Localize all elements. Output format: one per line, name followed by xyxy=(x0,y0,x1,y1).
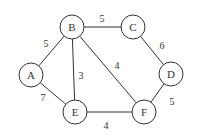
node-e: E xyxy=(63,100,87,124)
edge-d-f xyxy=(151,84,164,102)
node-label: B xyxy=(68,21,75,33)
node-a: A xyxy=(19,63,43,87)
node-label: D xyxy=(167,68,175,80)
edge-b-e xyxy=(72,39,74,100)
node-label: E xyxy=(72,106,79,118)
edge-line xyxy=(80,36,136,103)
edge-weight-d-f: 5 xyxy=(170,96,175,107)
node-label: A xyxy=(27,69,35,81)
node-label: F xyxy=(141,106,147,118)
edge-weight-a-b: 5 xyxy=(44,38,49,49)
edge-weight-b-e: 3 xyxy=(79,70,84,81)
edge-weight-c-d: 6 xyxy=(160,40,165,51)
edge-weight-b-c: 5 xyxy=(100,13,105,24)
node-d: D xyxy=(159,62,183,86)
edge-b-f xyxy=(80,36,136,103)
node-label: C xyxy=(129,21,136,33)
edge-weight-b-f: 4 xyxy=(115,60,120,71)
edge-line xyxy=(72,39,74,100)
edge-line xyxy=(151,84,164,102)
edge-weight-a-e: 7 xyxy=(41,92,46,103)
edge-weight-e-f: 4 xyxy=(104,120,109,131)
node-f: F xyxy=(132,100,156,124)
node-c: C xyxy=(121,15,145,39)
node-b: B xyxy=(60,15,84,39)
weighted-graph: 57534654 ABCDEF xyxy=(0,0,197,138)
